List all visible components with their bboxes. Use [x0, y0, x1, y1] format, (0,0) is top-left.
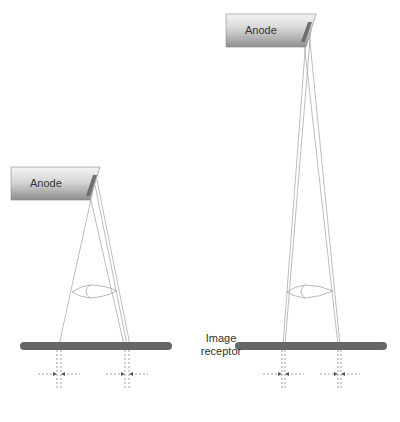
- receptor-label-line1: Image: [198, 332, 244, 345]
- right-object: [287, 285, 333, 298]
- left-blur-markers: [38, 350, 148, 390]
- receptor-label-line2: receptor: [198, 345, 244, 358]
- diagram-canvas: [0, 0, 400, 422]
- right-anode-label: Anode: [245, 24, 277, 36]
- left-image-receptor: [20, 342, 172, 350]
- left-rays: [59, 180, 130, 345]
- left-object: [72, 285, 117, 298]
- left-arrow-heads: [53, 372, 133, 376]
- right-image-receptor: [235, 342, 387, 350]
- image-receptor-label: Image receptor: [198, 332, 244, 358]
- right-arrow-heads: [278, 372, 345, 376]
- left-anode-label: Anode: [30, 177, 62, 189]
- right-blur-markers: [263, 350, 360, 390]
